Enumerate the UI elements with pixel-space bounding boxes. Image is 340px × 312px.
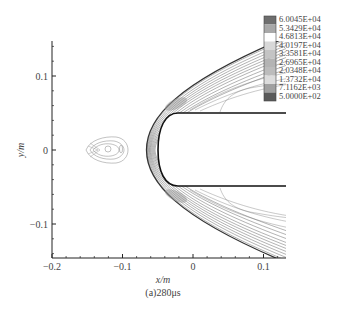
colorbar-labels: 6.0045E+04 5.3429E+04 4.6813E+04 4.0197E… bbox=[279, 14, 322, 101]
x-axis-label: x/m bbox=[155, 274, 170, 285]
figure-caption: (a)280μs bbox=[145, 287, 180, 299]
y-tick-label: 0.1 bbox=[36, 71, 49, 82]
x-tick-label: −0.1 bbox=[113, 261, 131, 272]
colorbar bbox=[264, 16, 276, 101]
y-axis-label: y/m bbox=[15, 143, 26, 158]
x-tick-label: 0.1 bbox=[257, 261, 270, 272]
upstream-disturbance bbox=[86, 137, 128, 163]
contour-plot: −0.2 −0.1 0 0.1 0.1 0 −0.1 x/m y/m (a)28… bbox=[0, 0, 340, 312]
legend-label: 5.0000E+02 bbox=[279, 91, 321, 101]
contour-field bbox=[86, 36, 290, 264]
x-tick-label: −0.2 bbox=[43, 261, 61, 272]
y-tick-label: −0.1 bbox=[30, 219, 48, 230]
blunt-body bbox=[158, 113, 290, 186]
y-tick-label: 0 bbox=[43, 145, 48, 156]
x-tick-label: 0 bbox=[191, 261, 196, 272]
